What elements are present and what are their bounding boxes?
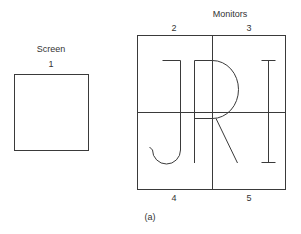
- screen-box: [15, 75, 89, 151]
- letter-r: [195, 61, 239, 164]
- letter-i: [262, 61, 276, 163]
- diagram-canvas: [0, 0, 301, 234]
